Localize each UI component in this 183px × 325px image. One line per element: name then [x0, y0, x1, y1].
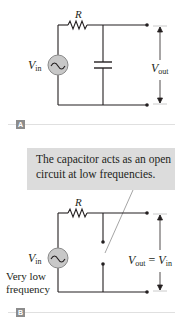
ac-source-icon	[48, 55, 68, 75]
panel-b-divider	[8, 312, 175, 313]
output-terminal-top	[145, 23, 149, 27]
resistor-symbol	[68, 21, 87, 29]
output-terminal-top-b	[145, 211, 149, 215]
callout-pointer	[105, 190, 133, 253]
output-terminal-bottom	[145, 103, 149, 107]
ac-source-icon-b	[48, 248, 68, 268]
vout-equals-vin-label: Vout=Vin	[128, 253, 172, 268]
resistor-label-a: R	[74, 8, 82, 20]
frequency-label-line1: Very low	[6, 270, 46, 282]
callout-box: The capacitor acts as an open circuit at…	[27, 148, 175, 190]
vin-label-a: Vin	[28, 58, 42, 73]
panel-a-tag: A	[16, 120, 25, 129]
vout-label-a: Vout	[151, 61, 169, 76]
callout-line-2: circuit at low frequencies.	[36, 167, 175, 182]
panel-a-circuit	[58, 21, 147, 105]
panel-b-tag: B	[16, 308, 25, 317]
open-circuit-node-bottom	[101, 262, 105, 266]
resistor-symbol-b	[68, 209, 87, 217]
open-circuit-node-top	[101, 240, 105, 244]
vin-label-b: Vin	[28, 251, 42, 266]
panel-a-divider	[8, 124, 175, 125]
output-terminal-bottom-b	[145, 290, 149, 294]
frequency-label-line2: frequency	[6, 283, 50, 295]
panel-b-circuit	[58, 209, 147, 292]
callout-line-1: The capacitor acts as an open	[36, 152, 175, 167]
resistor-label-b: R	[74, 196, 82, 208]
